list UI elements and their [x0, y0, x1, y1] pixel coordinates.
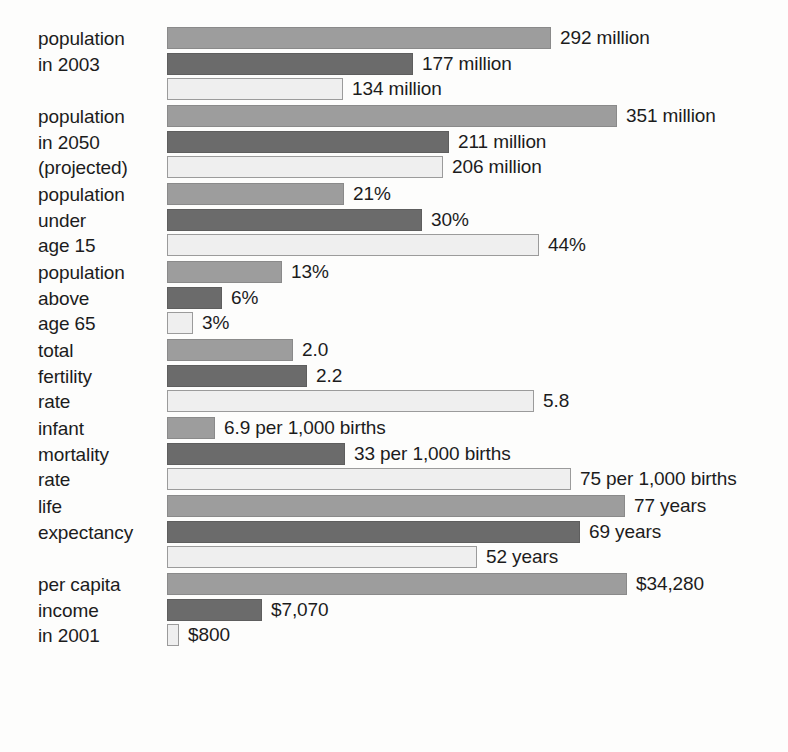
bar-group-label: per capitaincomein 2001	[38, 572, 163, 649]
bar-group-label-line: rate	[38, 467, 163, 493]
bar-row: 351 million	[167, 104, 788, 130]
bar-group-label-line: population	[38, 182, 163, 208]
bar-group-label-line: per capita	[38, 572, 163, 598]
bar-group-label: populationin 2050(projected)	[38, 104, 163, 181]
bar-group-bars: 292 million177 million134 million	[167, 26, 788, 103]
bar-value-label: 6%	[231, 286, 258, 312]
bar-value-label: 6.9 per 1,000 births	[224, 416, 386, 442]
bar-series-3-white	[167, 312, 193, 334]
bar-series-2-dark-gray	[167, 287, 222, 309]
bar-group-label-line: infant	[38, 416, 163, 442]
bar-row: 44%	[167, 233, 788, 259]
bar-group-label-line: in 2050	[38, 130, 163, 156]
bar-group: populationunderage 1521%30%44%	[0, 182, 788, 260]
bar-group-bars: 13%6%3%	[167, 260, 788, 337]
bar-row: 21%	[167, 182, 788, 208]
bar-row: $34,280	[167, 572, 788, 598]
bar-value-label: 30%	[431, 208, 469, 234]
bar-value-label: 292 million	[560, 26, 650, 52]
bar-group-label-line: income	[38, 598, 163, 624]
bar-group-label-line: mortality	[38, 442, 163, 468]
bar-value-label: 3%	[202, 311, 229, 337]
bar-value-label: 206 million	[452, 155, 542, 181]
bar-value-label: 13%	[291, 260, 329, 286]
bar-series-1-light-gray	[167, 105, 617, 127]
bar-row: $800	[167, 623, 788, 649]
bar-series-3-white	[167, 234, 539, 256]
bar-value-label: 77 years	[634, 494, 706, 520]
bar-value-label: 134 million	[352, 77, 442, 103]
bar-group-label-line: life	[38, 494, 163, 520]
bar-value-label: 2.0	[302, 338, 328, 364]
bar-group: populationaboveage 6513%6%3%	[0, 260, 788, 338]
bar-group-label-line: total	[38, 338, 163, 364]
bar-value-label: 75 per 1,000 births	[580, 467, 737, 493]
bar-row: 134 million	[167, 77, 788, 103]
bar-series-1-light-gray	[167, 495, 625, 517]
bar-series-1-light-gray	[167, 261, 282, 283]
bar-group-label: lifeexpectancy	[38, 494, 163, 545]
bar-group-label-line: above	[38, 286, 163, 312]
bar-group-bars: 77 years69 years52 years	[167, 494, 788, 571]
bar-value-label: 21%	[353, 182, 391, 208]
bar-series-2-dark-gray	[167, 365, 307, 387]
bar-series-3-white	[167, 390, 534, 412]
bar-group-label-line: fertility	[38, 364, 163, 390]
bar-value-label: 33 per 1,000 births	[354, 442, 511, 468]
bar-group-label-line: population	[38, 104, 163, 130]
bar-row: 13%	[167, 260, 788, 286]
bar-series-2-dark-gray	[167, 599, 262, 621]
bar-value-label: 211 million	[458, 130, 546, 156]
bar-series-2-dark-gray	[167, 131, 449, 153]
bar-series-3-white	[167, 78, 343, 100]
bar-row: 2.2	[167, 364, 788, 390]
bar-group: per capitaincomein 2001$34,280$7,070$800	[0, 572, 788, 650]
bar-group-bars: 21%30%44%	[167, 182, 788, 259]
bar-value-label: 69 years	[589, 520, 661, 546]
bar-group-bars: 2.02.25.8	[167, 338, 788, 415]
bar-series-1-light-gray	[167, 27, 551, 49]
bar-group-label-line: in 2001	[38, 623, 163, 649]
bar-value-label: 44%	[548, 233, 586, 259]
bar-group-label: populationaboveage 65	[38, 260, 163, 337]
bar-series-3-white	[167, 156, 443, 178]
bar-group-label: populationunderage 15	[38, 182, 163, 259]
bar-group: lifeexpectancy77 years69 years52 years	[0, 494, 788, 572]
bar-group-label-line: population	[38, 260, 163, 286]
bar-group-label-line: rate	[38, 389, 163, 415]
bar-group-label: infantmortalityrate	[38, 416, 163, 493]
bar-group: populationin 2003292 million177 million1…	[0, 26, 788, 104]
bar-group-label-line: in 2003	[38, 52, 163, 78]
bar-group: infantmortalityrate6.9 per 1,000 births3…	[0, 416, 788, 494]
bar-row: $7,070	[167, 598, 788, 624]
bar-row: 3%	[167, 311, 788, 337]
bar-group-label: populationin 2003	[38, 26, 163, 77]
bar-group-bars: 351 million211 million206 million	[167, 104, 788, 181]
bar-group: populationin 2050(projected)351 million2…	[0, 104, 788, 182]
bar-row: 2.0	[167, 338, 788, 364]
bar-series-1-light-gray	[167, 573, 627, 595]
bar-value-label: 5.8	[543, 389, 569, 415]
bar-group-label-line: age 65	[38, 311, 163, 337]
bar-group-label-line: expectancy	[38, 520, 163, 546]
bar-row: 5.8	[167, 389, 788, 415]
bar-value-label: $7,070	[271, 598, 329, 624]
bar-series-1-light-gray	[167, 339, 293, 361]
bar-series-1-light-gray	[167, 183, 344, 205]
bar-value-label: $800	[188, 623, 230, 649]
bar-row: 69 years	[167, 520, 788, 546]
bar-series-2-dark-gray	[167, 443, 345, 465]
bar-value-label: 2.2	[316, 364, 342, 390]
bar-row: 52 years	[167, 545, 788, 571]
bar-series-3-white	[167, 624, 179, 646]
bar-group-bars: $34,280$7,070$800	[167, 572, 788, 649]
bar-row: 177 million	[167, 52, 788, 78]
bar-series-2-dark-gray	[167, 53, 413, 75]
bar-row: 292 million	[167, 26, 788, 52]
bar-group-label: totalfertilityrate	[38, 338, 163, 415]
bar-row: 6.9 per 1,000 births	[167, 416, 788, 442]
bar-value-label: 177 million	[422, 52, 512, 78]
bar-row: 77 years	[167, 494, 788, 520]
bar-value-label: 52 years	[486, 545, 558, 571]
bar-row: 206 million	[167, 155, 788, 181]
